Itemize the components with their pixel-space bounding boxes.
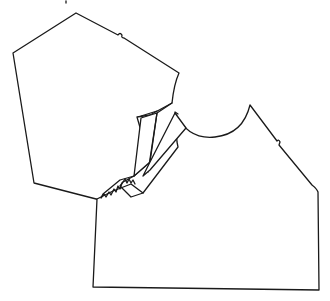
diagram-subject: sewing pattern pieces — [0, 0, 1, 1]
sleeve-piece — [13, 1, 179, 200]
pattern-diagram — [0, 0, 330, 301]
